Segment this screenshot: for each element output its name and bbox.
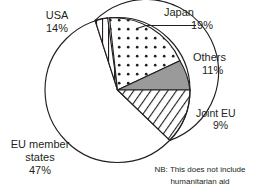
- label-japan: Japan 19%: [160, 6, 230, 32]
- label-eu-member-percent: 47%: [2, 164, 78, 177]
- chart-note-line1: NB: This does not include: [138, 164, 262, 176]
- label-japan-percent: 19%: [160, 19, 230, 32]
- pie-chart-figure: USA 14% Japan 19% Others 11% Joint EU 9%…: [0, 0, 263, 194]
- chart-note-line2: humanitarian aid: [138, 176, 262, 188]
- label-others: Others 11%: [193, 51, 255, 77]
- label-joint-eu-name: Joint EU: [196, 107, 260, 119]
- label-usa-name: USA: [30, 9, 84, 22]
- label-eu-member-name-line2: states: [2, 151, 78, 164]
- label-others-name: Others: [193, 51, 255, 64]
- label-eu-member-name-line1: EU member: [2, 138, 78, 151]
- label-japan-name: Japan: [160, 6, 230, 19]
- label-eu-member-states: EU member states 47%: [2, 138, 78, 177]
- label-usa: USA 14%: [30, 9, 84, 35]
- label-usa-percent: 14%: [30, 22, 84, 35]
- label-joint-eu-percent: 9%: [196, 119, 260, 131]
- label-others-percent: 11%: [193, 64, 255, 77]
- label-joint-eu: Joint EU 9%: [196, 107, 260, 132]
- chart-note: NB: This does not include humanitarian a…: [138, 164, 262, 188]
